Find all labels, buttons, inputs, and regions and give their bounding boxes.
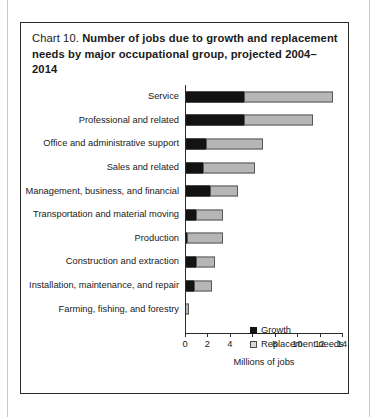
legend-swatch-growth-icon <box>250 327 257 334</box>
bar-track <box>185 274 342 298</box>
stacked-bar <box>185 233 223 244</box>
bar-category-label: Office and administrative support <box>21 138 185 149</box>
bar-category-label: Construction and extraction <box>21 256 185 267</box>
bar-segment-growth <box>185 256 196 267</box>
stacked-bar <box>185 138 263 149</box>
stacked-bar <box>185 209 223 220</box>
bar-segment-replacement <box>203 162 255 173</box>
chart-title: Chart 10. Number of jobs due to growth a… <box>32 31 338 78</box>
bar-segment-replacement <box>196 209 223 220</box>
plot-area: ServiceProfessional and relatedOffice an… <box>21 85 348 385</box>
stacked-bar <box>185 280 212 291</box>
stacked-bar <box>185 115 313 126</box>
bar-category-label: Professional and related <box>21 115 185 126</box>
x-axis-tick <box>230 333 231 337</box>
bar-segment-replacement <box>187 233 223 244</box>
bar-category-label: Management, business, and financial <box>21 186 185 197</box>
bar-segment-replacement <box>244 91 333 102</box>
bar-track <box>185 156 342 180</box>
bar-segment-growth <box>185 91 244 102</box>
chart-number-label: Chart 10. <box>32 32 79 44</box>
chart-legend: Growth Replacement needs <box>250 323 344 351</box>
x-axis-tick-label: 2 <box>205 339 210 349</box>
bar-segment-growth <box>185 186 210 197</box>
x-axis-title: Millions of jobs <box>185 357 343 367</box>
bar-segment-growth <box>185 138 206 149</box>
y-axis-line <box>185 85 186 333</box>
bar-track <box>185 85 342 109</box>
legend-swatch-replacement-icon <box>250 341 257 348</box>
bar-track <box>185 132 342 156</box>
bar-segment-replacement <box>194 280 212 291</box>
bar-category-label: Installation, maintenance, and repair <box>21 280 185 291</box>
stacked-bar <box>185 91 333 102</box>
bar-segment-replacement <box>196 256 215 267</box>
stacked-bar <box>185 256 215 267</box>
bar-track <box>185 227 342 251</box>
bar-segment-replacement <box>210 186 238 197</box>
bar-segment-replacement <box>244 115 312 126</box>
bar-category-label: Service <box>21 91 185 102</box>
page-edge-right-line <box>369 0 370 417</box>
bar-category-label: Farming, fishing, and forestry <box>21 304 185 315</box>
bar-segment-growth <box>185 115 244 126</box>
bar-segment-growth <box>185 209 196 220</box>
page-edge-left-line <box>7 0 8 417</box>
stacked-bar <box>185 162 255 173</box>
legend-label-replacement: Replacement needs <box>261 339 344 349</box>
bar-segment-growth <box>185 280 194 291</box>
bar-category-label: Production <box>21 233 185 244</box>
legend-item-growth: Growth <box>250 323 344 337</box>
stacked-bar <box>185 186 238 197</box>
chart-figure-box: Chart 10. Number of jobs due to growth a… <box>20 22 349 394</box>
bar-track <box>185 109 342 133</box>
x-axis-tick <box>207 333 208 337</box>
x-axis-tick <box>185 333 186 337</box>
legend-label-growth: Growth <box>261 325 291 335</box>
x-axis-tick-label: 0 <box>182 339 187 349</box>
bar-track <box>185 250 342 274</box>
bar-segment-replacement <box>206 138 263 149</box>
bar-track <box>185 179 342 203</box>
legend-item-replacement: Replacement needs <box>250 337 344 351</box>
bar-category-label: Sales and related <box>21 162 185 173</box>
bar-segment-growth <box>185 162 203 173</box>
bar-track <box>185 297 342 321</box>
bar-category-label: Transportation and material moving <box>21 209 185 220</box>
x-axis-tick-label: 4 <box>227 339 232 349</box>
bar-track <box>185 203 342 227</box>
